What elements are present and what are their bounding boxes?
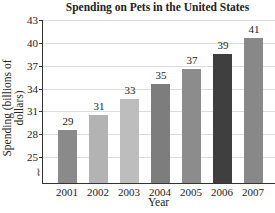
- y-tick-label: 37: [0, 61, 38, 72]
- y-tick-label: 31: [0, 106, 38, 117]
- bar-value-label: 41: [239, 24, 269, 35]
- gridline: [43, 43, 275, 44]
- y-tick: [39, 89, 43, 90]
- axis-break-icon: ⌇: [36, 168, 41, 178]
- y-tick-label: 25: [0, 152, 38, 163]
- bar-2006: [213, 54, 232, 183]
- y-tick-label: 34: [0, 84, 38, 95]
- bar-value-label: 33: [115, 85, 145, 96]
- y-tick-label: 43: [0, 15, 38, 26]
- y-tick-label: 40: [0, 38, 38, 49]
- y-tick: [39, 157, 43, 158]
- bar-value-label: 35: [146, 70, 176, 81]
- bar-2005: [182, 69, 201, 183]
- bar-value-label: 31: [84, 101, 114, 112]
- bar-2004: [151, 84, 170, 183]
- chart-title: Spending on Pets in the United States: [40, 1, 275, 13]
- bar-2007: [244, 38, 263, 183]
- y-tick: [39, 66, 43, 67]
- plot-area: 29 31 33 35 37 39 41: [42, 20, 275, 184]
- y-tick: [39, 111, 43, 112]
- bar-2001: [58, 130, 77, 183]
- gridline: [43, 20, 275, 21]
- y-tick: [39, 20, 43, 21]
- y-tick: [39, 134, 43, 135]
- bar-value-label: 37: [177, 55, 207, 66]
- bar-value-label: 29: [53, 116, 83, 127]
- x-axis-label: Year: [42, 196, 275, 208]
- y-tick: [39, 43, 43, 44]
- y-tick-label: 28: [0, 129, 38, 140]
- bar-value-label: 39: [208, 40, 238, 51]
- gridline: [43, 66, 275, 67]
- bar-2003: [120, 99, 139, 183]
- bar-2002: [89, 115, 108, 183]
